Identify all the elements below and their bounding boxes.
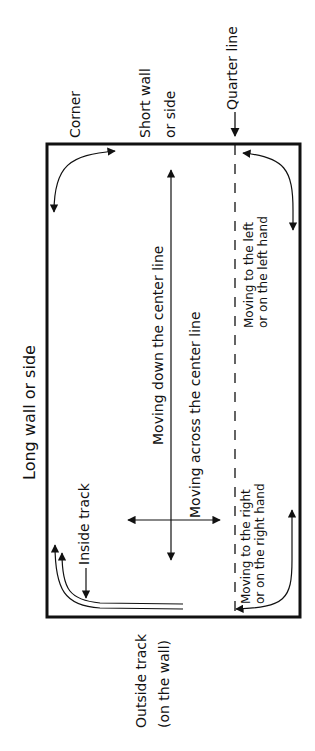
left-hand-label-1: Moving to the left (243, 222, 256, 328)
corner-arrow (54, 151, 115, 212)
inside-track-label: Inside track (77, 483, 92, 565)
short-wall-label-1: Short wall (138, 68, 153, 138)
right-hand-label-2: or on the right hand (254, 483, 267, 604)
quarter-line-label: Quarter line (225, 26, 240, 110)
long-wall-label: Long wall or side (22, 345, 37, 480)
right-hand-label-1: Moving to the right (240, 489, 253, 604)
corner-label: Corner (68, 91, 83, 138)
outside-track-label-1: Outside track (134, 634, 149, 728)
left-hand-label-2: or on the left hand (257, 216, 270, 328)
down-center-label: Moving down the center line (151, 246, 166, 445)
across-center-label: Moving across the center line (188, 311, 203, 518)
outside-track-label-2: (on the wall) (157, 640, 172, 728)
outside-track (55, 545, 183, 609)
short-wall-label-2: or side (163, 91, 178, 138)
